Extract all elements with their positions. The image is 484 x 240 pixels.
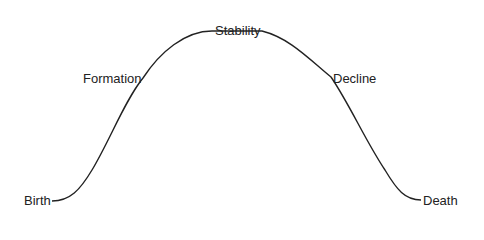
stage-label-stability: Stability (215, 23, 261, 38)
stage-label-formation: Formation (83, 71, 142, 86)
stage-label-death: Death (423, 193, 458, 208)
stage-label-decline: Decline (333, 71, 376, 86)
stage-label-birth: Birth (24, 193, 51, 208)
